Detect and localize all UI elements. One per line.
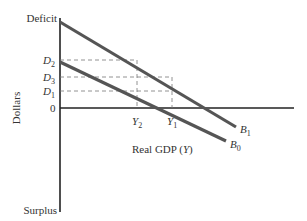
line-b0 [60, 62, 226, 141]
label-b0: B0 [230, 138, 241, 153]
real-gdp-label: Real GDP (Y) [132, 143, 193, 156]
surplus-label: Surplus [23, 204, 57, 216]
tick-d2: D2 [42, 54, 55, 69]
deficit-label: Deficit [26, 12, 57, 24]
tick-y2: Y2 [132, 115, 142, 130]
budget-deficit-diagram: Deficit Surplus Dollars D2 D3 D1 0 Y2 Y1… [0, 0, 307, 221]
tick-zero: 0 [50, 102, 56, 114]
dashed-guides [60, 60, 172, 108]
tick-d3: D3 [42, 71, 55, 86]
tick-d1: D1 [42, 85, 55, 100]
label-b1: B1 [240, 123, 251, 138]
dollars-label: Dollars [10, 92, 22, 124]
